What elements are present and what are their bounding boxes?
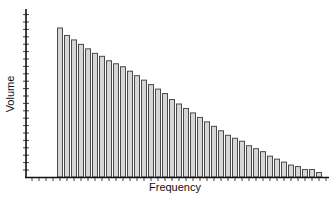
bar — [72, 40, 77, 177]
bar — [135, 76, 140, 177]
bar — [149, 85, 154, 177]
bar — [156, 89, 161, 177]
bar — [289, 165, 294, 177]
bar — [191, 113, 196, 177]
bar — [212, 126, 217, 177]
bars — [58, 28, 322, 177]
bar — [65, 35, 70, 177]
bar — [198, 117, 203, 177]
bar — [184, 108, 189, 177]
bar — [114, 64, 119, 177]
bar — [303, 170, 308, 177]
bar — [121, 67, 126, 177]
bar — [268, 156, 273, 177]
bar — [86, 49, 91, 177]
bar — [170, 100, 175, 177]
bar — [107, 61, 112, 177]
bar — [58, 28, 63, 177]
bar — [219, 131, 224, 177]
bar — [177, 104, 182, 177]
bar — [93, 53, 98, 177]
bar — [282, 162, 287, 177]
x-axis-label: Frequency — [149, 181, 201, 193]
bar — [100, 56, 105, 177]
bar — [163, 94, 168, 177]
y-axis-label: Volume — [4, 74, 16, 114]
bar — [317, 173, 322, 177]
bar-chart — [0, 0, 331, 204]
bar — [261, 152, 266, 177]
bar — [240, 141, 245, 177]
bar — [226, 135, 231, 177]
bar — [275, 159, 280, 177]
bar — [233, 138, 238, 177]
bar — [310, 170, 315, 177]
bar — [79, 44, 84, 177]
bar — [296, 167, 301, 177]
bar — [254, 149, 259, 177]
bar — [128, 71, 133, 177]
bar — [247, 146, 252, 177]
bar — [205, 122, 210, 177]
bar — [142, 80, 147, 177]
